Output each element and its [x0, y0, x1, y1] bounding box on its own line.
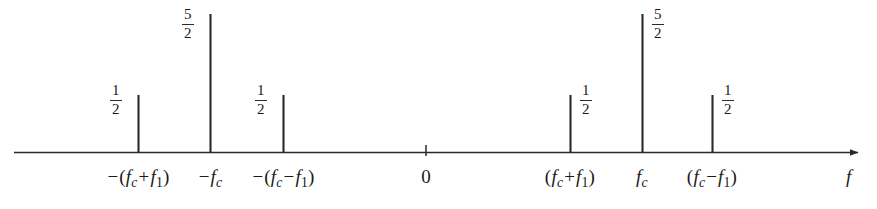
amplitude-label-pos-fc-plus-f1: 1 2 — [580, 83, 592, 118]
subscript-c: c — [216, 175, 222, 190]
subscript-1: 1 — [301, 175, 308, 190]
amplitude-numerator: 1 — [722, 83, 734, 101]
close-paren: ) — [731, 166, 738, 187]
close-paren: ) — [589, 166, 596, 187]
amplitude-denominator: 2 — [255, 101, 267, 118]
amplitude-numerator: 1 — [110, 83, 122, 101]
amplitude-numerator: 5 — [182, 7, 194, 25]
amplitude-numerator: 5 — [652, 7, 664, 25]
amplitude-denominator: 2 — [652, 25, 664, 42]
subscript-c: c — [642, 175, 648, 190]
minus-sign: − — [198, 166, 211, 187]
close-paren: ) — [308, 166, 315, 187]
tick-label-pos-fc: fc — [636, 167, 648, 190]
minus-sign: − — [251, 166, 264, 187]
minus-sign: − — [106, 166, 119, 187]
tick-label-pos-fc-minus-f1: (fc−f1) — [687, 167, 737, 190]
subscript-1: 1 — [156, 175, 163, 190]
amplitude-denominator: 2 — [722, 101, 734, 118]
tick-label-pos-fc-plus-f1: (fc+f1) — [545, 167, 595, 190]
plus-sign: + — [563, 166, 576, 187]
subscript-1: 1 — [582, 175, 589, 190]
spectrum-figure: 1 2 5 2 1 2 1 2 5 2 1 2 −(fc+f1) −fc −(f… — [0, 0, 877, 209]
close-paren: ) — [163, 166, 170, 187]
subscript-1: 1 — [724, 175, 731, 190]
plus-sign: + — [138, 166, 151, 187]
amplitude-label-neg-fc-minus-f1: 1 2 — [255, 83, 267, 118]
x-axis-label-f: f — [846, 167, 851, 186]
tick-label-neg-fc-plus-f1: −(fc+f1) — [106, 167, 169, 190]
tick-label-neg-fc: −fc — [198, 167, 223, 190]
amplitude-denominator: 2 — [110, 101, 122, 118]
amplitude-denominator: 2 — [182, 25, 194, 42]
tick-label-zero: 0 — [421, 167, 431, 186]
amplitude-numerator: 1 — [580, 83, 592, 101]
amplitude-denominator: 2 — [580, 101, 592, 118]
amplitude-numerator: 1 — [255, 83, 267, 101]
tick-label-neg-fc-minus-f1: −(fc−f1) — [251, 167, 314, 190]
minus-operator: − — [705, 166, 718, 187]
minus-operator: − — [283, 166, 296, 187]
amplitude-label-pos-fc-minus-f1: 1 2 — [722, 83, 734, 118]
amplitude-label-pos-fc: 5 2 — [652, 7, 664, 42]
amplitude-label-neg-fc: 5 2 — [182, 7, 194, 42]
amplitude-label-neg-fc-plus-f1: 1 2 — [110, 83, 122, 118]
